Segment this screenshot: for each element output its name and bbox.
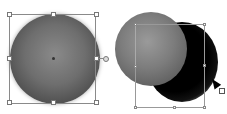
- shadow-handle-top-right[interactable]: [203, 23, 206, 26]
- resize-handle-bottom-left[interactable]: [7, 100, 12, 105]
- shadow-offset-guide: [135, 24, 136, 66]
- shadow-handle-bottom-left[interactable]: [134, 106, 137, 109]
- scale-badge-icon: [219, 88, 225, 94]
- drawing-canvas[interactable]: [0, 0, 227, 114]
- shadow-handle-right[interactable]: [203, 64, 206, 67]
- resize-handle-top-left[interactable]: [7, 12, 12, 17]
- resize-handle-top-right[interactable]: [94, 12, 99, 17]
- shadow-handle-bottom[interactable]: [173, 106, 176, 109]
- shadow-handle-top-left[interactable]: [134, 23, 137, 26]
- shadow-handle-bottom-right[interactable]: [203, 106, 206, 109]
- resize-handle-bottom[interactable]: [51, 100, 56, 105]
- shadow-handle-mid[interactable]: [134, 65, 137, 68]
- rotation-handle-icon[interactable]: [103, 56, 109, 62]
- shadow-bounding-box: [135, 24, 205, 108]
- resize-handle-bottom-right[interactable]: [94, 100, 99, 105]
- resize-handle-left[interactable]: [7, 56, 12, 61]
- resize-handle-top[interactable]: [51, 12, 56, 17]
- center-point-icon: [52, 57, 55, 60]
